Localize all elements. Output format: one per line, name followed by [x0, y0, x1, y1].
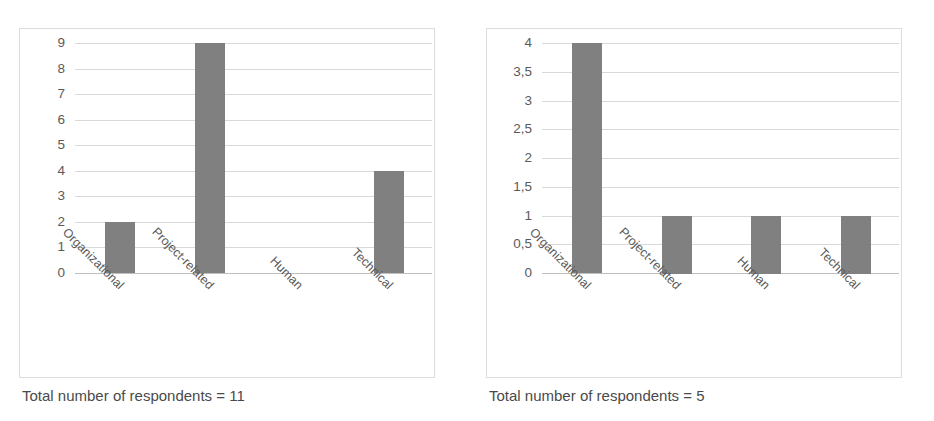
chart-panel-left: 0123456789OrganizationalProject-relatedH… — [0, 0, 467, 421]
gridline — [75, 120, 432, 121]
y-axis-tick-label: 0 — [487, 266, 532, 280]
gridline — [75, 145, 432, 146]
chart-caption-right: Total number of respondents = 5 — [489, 387, 705, 405]
chart-caption-left: Total number of respondents = 11 — [22, 387, 245, 405]
chart-panel-right: 00,511,522,533,54OrganizationalProject-r… — [467, 0, 934, 421]
gridline — [75, 43, 432, 44]
y-axis-tick-label: 0 — [20, 266, 65, 280]
y-axis-tick-label: 7 — [20, 87, 65, 101]
plot-area-right: 00,511,522,533,54OrganizationalProject-r… — [487, 29, 901, 377]
chart-frame-right: 00,511,522,533,54OrganizationalProject-r… — [486, 28, 902, 378]
y-axis-tick-label: 2,5 — [487, 122, 532, 136]
y-axis-tick-label: 3 — [487, 94, 532, 108]
y-axis-tick-label: 2 — [487, 151, 532, 165]
gridline — [75, 69, 432, 70]
bar — [374, 171, 404, 273]
plot-area-left: 0123456789OrganizationalProject-relatedH… — [20, 29, 434, 377]
bar — [195, 43, 225, 273]
bar — [572, 43, 602, 273]
y-axis-tick-label: 9 — [20, 36, 65, 50]
y-axis-tick-label: 5 — [20, 138, 65, 152]
y-axis-tick-label: 2 — [20, 215, 65, 229]
figure-container: 0123456789OrganizationalProject-relatedH… — [0, 0, 934, 421]
y-axis-tick-label: 6 — [20, 113, 65, 127]
chart-frame-left: 0123456789OrganizationalProject-relatedH… — [19, 28, 435, 378]
y-axis-tick-label: 8 — [20, 62, 65, 76]
y-axis-tick-label: 3,5 — [487, 65, 532, 79]
y-axis-tick-label: 4 — [20, 164, 65, 178]
y-axis-tick-label: 0,5 — [487, 237, 532, 251]
y-axis-tick-label: 3 — [20, 189, 65, 203]
y-axis-tick-label: 1,5 — [487, 180, 532, 194]
gridline — [75, 94, 432, 95]
y-axis-tick-label: 1 — [20, 240, 65, 254]
y-axis-tick-label: 1 — [487, 209, 532, 223]
y-axis-tick-label: 4 — [487, 36, 532, 50]
